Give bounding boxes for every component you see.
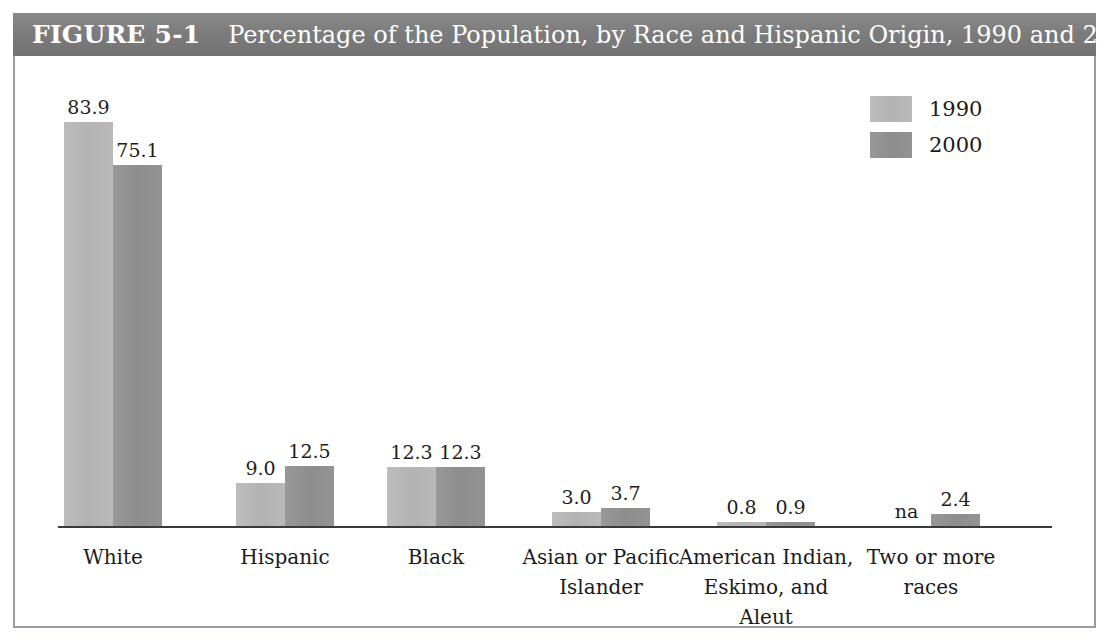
bar-slot: 75.1	[113, 106, 162, 526]
bar-slot: 2.4	[931, 106, 980, 526]
bar-slot: 12.3	[387, 106, 436, 526]
legend-item-1990[interactable]: 1990	[870, 94, 982, 124]
chart-legend: 19902000	[870, 94, 982, 166]
bar-value-label: 75.1	[116, 139, 158, 161]
bar-2000-american[interactable]	[766, 522, 815, 526]
bar-slot: 83.9	[64, 106, 113, 526]
bar-slot: 12.3	[436, 106, 485, 526]
bar-slot: 0.8	[717, 106, 766, 526]
category-label-asian: Asian or PacificIslander	[510, 542, 692, 602]
legend-label-2000: 2000	[929, 133, 982, 157]
bar-slot: 12.5	[285, 106, 334, 526]
bar-slot: 0.9	[766, 106, 815, 526]
bar-value-label: 3.7	[610, 482, 640, 504]
bar-slot: 9.0	[236, 106, 285, 526]
bar-1990-asian[interactable]	[552, 512, 601, 526]
bar-slot: 3.0	[552, 106, 601, 526]
bar-value-na: na	[895, 500, 919, 522]
category-label-line: Asian or Pacific	[510, 542, 692, 572]
figure-container: FIGURE 5-1 Percentage of the Population,…	[0, 0, 1111, 641]
figure-number-label: FIGURE 5-1	[32, 20, 200, 49]
bar-value-label: 3.0	[561, 486, 591, 508]
bar-2000-asian[interactable]	[601, 508, 650, 526]
category-label-line: Islander	[510, 572, 692, 602]
bar-value-label: 12.3	[439, 441, 481, 463]
bar-slot: 3.7	[601, 106, 650, 526]
bar-value-label: 83.9	[67, 96, 109, 118]
bar-1990-black[interactable]	[387, 467, 436, 526]
legend-item-2000[interactable]: 2000	[870, 130, 982, 160]
x-axis-line	[58, 526, 1052, 528]
category-label-white: White	[22, 542, 204, 572]
bar-2000-two[interactable]	[931, 514, 980, 526]
category-label-line: Eskimo, and Aleut	[675, 572, 857, 632]
bar-1990-american[interactable]	[717, 522, 766, 526]
bar-slot: na	[882, 106, 931, 526]
legend-swatch-1990	[870, 96, 912, 122]
figure-title-bar: FIGURE 5-1 Percentage of the Population,…	[13, 13, 1096, 56]
bar-value-label: 9.0	[245, 457, 275, 479]
category-label-line: White	[22, 542, 204, 572]
chart-frame: 83.975.1White9.012.5Hispanic12.312.3Blac…	[13, 56, 1096, 628]
category-label-line: Black	[345, 542, 527, 572]
category-label-line: Two or more	[840, 542, 1022, 572]
bar-value-label: 12.5	[288, 440, 330, 462]
category-label-two: Two or moreraces	[840, 542, 1022, 602]
bar-value-label: 0.8	[726, 496, 756, 518]
bar-1990-hispanic[interactable]	[236, 483, 285, 526]
category-label-black: Black	[345, 542, 527, 572]
category-label-line: American Indian,	[675, 542, 857, 572]
bar-1990-white[interactable]	[64, 122, 113, 526]
bar-value-label: 0.9	[775, 496, 805, 518]
category-label-american: American Indian,Eskimo, and Aleut	[675, 542, 857, 632]
bar-2000-hispanic[interactable]	[285, 466, 334, 526]
bar-value-label: 12.3	[390, 441, 432, 463]
bar-value-label: 2.4	[940, 488, 970, 510]
figure-caption: Percentage of the Population, by Race an…	[228, 21, 1111, 49]
category-label-line: races	[840, 572, 1022, 602]
legend-label-1990: 1990	[929, 97, 982, 121]
bar-2000-black[interactable]	[436, 467, 485, 526]
bar-2000-white[interactable]	[113, 165, 162, 526]
legend-swatch-2000	[870, 132, 912, 158]
